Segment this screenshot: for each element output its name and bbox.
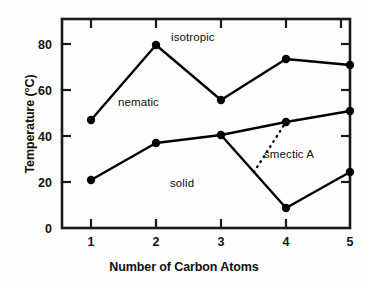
data-point xyxy=(217,131,225,139)
region-label-smectic-a: smectic A xyxy=(264,148,314,160)
x-tick-label-1: 1 xyxy=(79,235,103,249)
x-tick-label-2: 2 xyxy=(144,235,168,249)
x-tick-label-5: 5 xyxy=(338,235,362,249)
x-axis-title: Number of Carbon Atoms xyxy=(0,260,368,274)
data-point xyxy=(346,168,354,176)
data-point xyxy=(346,61,354,69)
data-point xyxy=(282,118,290,126)
x-tick-label-4: 4 xyxy=(274,235,298,249)
region-label-nematic: nematic xyxy=(118,96,159,108)
data-point xyxy=(346,107,354,115)
series-nematic-isotropic-markers xyxy=(87,41,354,124)
region-label-solid: solid xyxy=(170,177,194,189)
region-label-isotropic: isotropic xyxy=(171,31,215,43)
y-axis-ticks xyxy=(62,44,350,182)
series-solid-smectic-line xyxy=(221,135,350,208)
phase-diagram-figure: 0 20 40 60 80 1 2 3 4 5 Number of Carbon… xyxy=(0,0,368,283)
data-point xyxy=(217,96,225,104)
y-axis-title: Temperature (°C) xyxy=(23,74,37,173)
series-smectic-dotted-line xyxy=(254,122,286,172)
data-point xyxy=(282,204,290,212)
data-point xyxy=(282,55,290,63)
data-point xyxy=(87,116,95,124)
x-axis-ticks xyxy=(91,19,341,228)
x-tick-label-3: 3 xyxy=(209,235,233,249)
y-tick-label-0: 0 xyxy=(24,222,52,236)
series-solid-nematic-markers xyxy=(87,107,354,184)
series-nematic-isotropic-line xyxy=(91,45,350,120)
data-point xyxy=(87,176,95,184)
data-point xyxy=(152,139,160,147)
data-point xyxy=(152,41,160,49)
series-solid-nematic-line xyxy=(91,111,350,180)
y-axis-title-wrapper: Temperature (°C) xyxy=(20,24,40,224)
